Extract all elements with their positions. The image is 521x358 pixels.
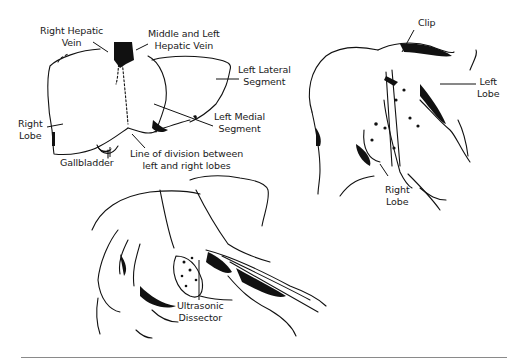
label-left-lateral-segment: Left Lateral Segment (238, 64, 291, 87)
panel-c-liver-illustration (0, 0, 521, 358)
label-right-lobe-a: Right Lobe (18, 118, 43, 141)
liver-surgery-figure: Right Hepatic Vein Middle and Left Hepat… (0, 0, 521, 358)
label-middle-left-hepatic-vein: Middle and Left Hepatic Vein (148, 28, 220, 51)
label-line-of-division: Line of division between left and right … (130, 148, 243, 171)
label-right-lobe-b: Right Lobe (385, 184, 410, 207)
label-ultrasonic-dissector: Ultrasonic Dissector (177, 300, 224, 323)
label-right-hepatic-vein: Right Hepatic Vein (40, 25, 103, 48)
label-left-lobe: Left Lobe (477, 76, 499, 99)
label-left-medial-segment: Left Medial Segment (214, 111, 265, 134)
label-gallbladder: Gallbladder (60, 157, 114, 169)
label-clip: Clip (418, 17, 436, 29)
